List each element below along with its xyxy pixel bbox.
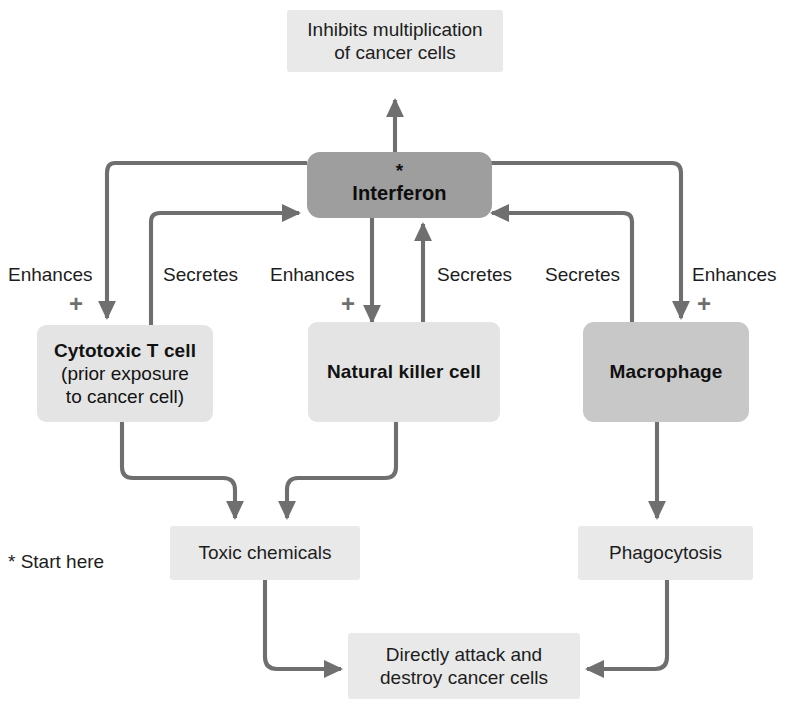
node-directly-attack: Directly attack and destroy cancer cells xyxy=(348,633,580,699)
node-toxic-chemicals: Toxic chemicals xyxy=(170,526,360,580)
interferon-label: Interferon xyxy=(313,181,486,205)
node-natural-killer-cell: Natural killer cell xyxy=(308,322,500,422)
natural-killer-cell-title: Natural killer cell xyxy=(314,360,494,383)
toxic-chemicals-label: Toxic chemicals xyxy=(176,541,354,564)
edge-label-secretes-nk-cell: Secretes xyxy=(437,264,512,286)
cytotoxic-t-cell-sub-2: to cancer cell) xyxy=(43,385,207,408)
inhibits-line-1: Inhibits multiplication xyxy=(293,18,497,41)
node-cytotoxic-t-cell: Cytotoxic T cell (prior exposure to canc… xyxy=(37,325,213,422)
edge-nk-cell-to-toxic-chemicals xyxy=(287,422,396,518)
edge-label-enhances-macrophage: Enhances xyxy=(692,264,777,286)
node-macrophage: Macrophage xyxy=(583,322,749,422)
cytotoxic-t-cell-title: Cytotoxic T cell xyxy=(43,339,207,362)
edge-phagocytosis-to-directly-attack xyxy=(587,580,667,669)
diagram-canvas: Inhibits multiplication of cancer cells … xyxy=(0,0,785,721)
node-inhibits-multiplication: Inhibits multiplication of cancer cells xyxy=(287,10,503,72)
edge-toxic-chemicals-to-directly-attack xyxy=(265,580,341,669)
plus-sign-macrophage: + xyxy=(697,292,711,316)
footnote-start-here: * Start here xyxy=(8,551,104,573)
inhibits-line-2: of cancer cells xyxy=(293,41,497,64)
edge-interferon-enhances-macrophage xyxy=(484,163,681,318)
node-interferon: * Interferon xyxy=(307,152,492,218)
edge-label-secretes-t-cell: Secretes xyxy=(163,264,238,286)
interferon-asterisk: * xyxy=(313,164,486,178)
directly-attack-line-2: destroy cancer cells xyxy=(354,666,574,689)
directly-attack-line-1: Directly attack and xyxy=(354,643,574,666)
plus-sign-t-cell: + xyxy=(69,292,83,316)
edge-label-enhances-nk-cell: Enhances xyxy=(270,264,355,286)
edge-label-secretes-macrophage: Secretes xyxy=(545,264,620,286)
cytotoxic-t-cell-sub-1: (prior exposure xyxy=(43,362,207,385)
phagocytosis-label: Phagocytosis xyxy=(584,541,747,564)
edge-t-cell-to-toxic-chemicals xyxy=(122,422,235,518)
macrophage-title: Macrophage xyxy=(589,360,743,383)
plus-sign-nk-cell: + xyxy=(341,292,355,316)
node-phagocytosis: Phagocytosis xyxy=(578,526,753,580)
edge-label-enhances-t-cell: Enhances xyxy=(8,264,93,286)
edge-interferon-enhances-t-cell xyxy=(107,163,307,318)
